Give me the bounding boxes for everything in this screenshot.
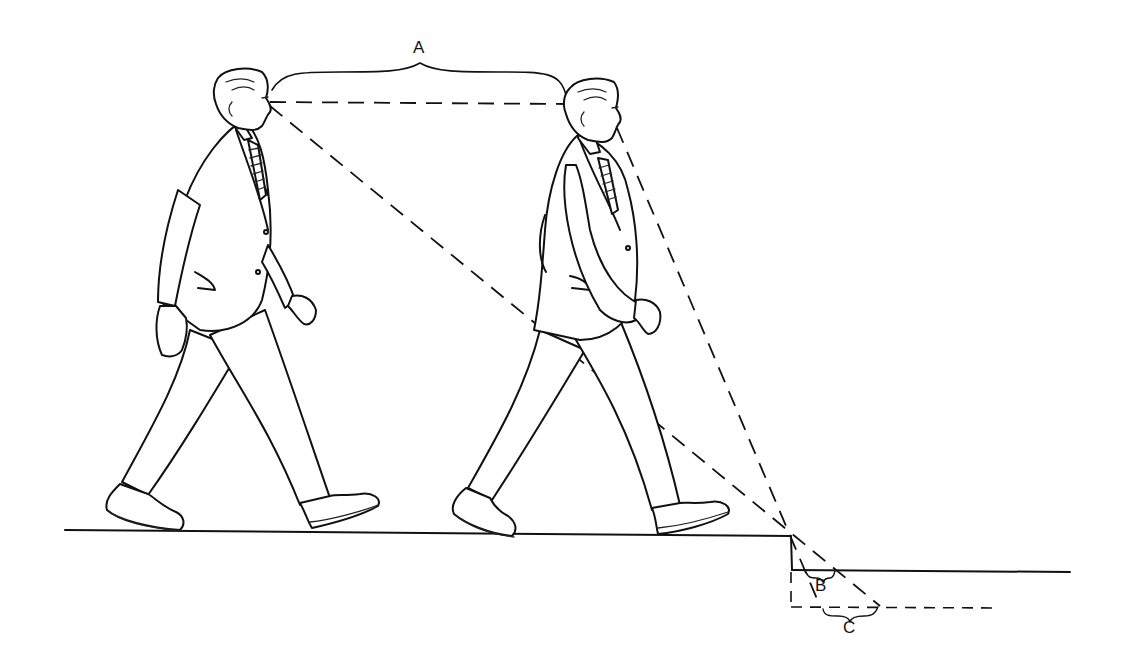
label-b: B xyxy=(815,576,826,596)
projected-floor-dashed xyxy=(791,607,1000,608)
lower-ground-line xyxy=(792,570,1070,572)
sightline-horizontal xyxy=(270,102,566,104)
brace-a xyxy=(272,63,566,95)
label-a: A xyxy=(413,38,424,58)
man-right xyxy=(453,79,729,537)
man-left xyxy=(106,69,379,531)
illustration-canvas xyxy=(0,0,1129,672)
label-c: C xyxy=(843,618,855,638)
